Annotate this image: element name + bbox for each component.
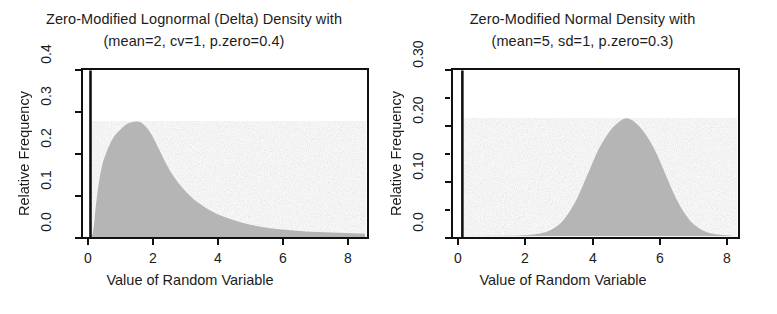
x-tick-label-right-4: 8 bbox=[723, 250, 731, 266]
plot-inner-normal bbox=[453, 70, 738, 237]
x-tick-label-left-3: 6 bbox=[279, 250, 287, 266]
y-axis-title-right: Relative Frequency bbox=[388, 74, 404, 234]
x-tick-right-4 bbox=[592, 239, 594, 245]
x-tick-right-0 bbox=[457, 239, 459, 245]
y-tick-label-right-2: 0.10 bbox=[410, 152, 426, 179]
x-tick-label-left-4: 8 bbox=[344, 250, 352, 266]
chart-title-lognormal: Zero-Modified Lognormal (Delta) Density … bbox=[0, 8, 388, 52]
x-tick-label-right-0: 0 bbox=[454, 250, 462, 266]
y-tick-label-left-0: 0.0 bbox=[38, 212, 54, 231]
x-tick-label-right-1: 2 bbox=[521, 250, 529, 266]
x-tick-left-4 bbox=[217, 239, 219, 245]
title-line-main: Zero-Modified Normal Density with bbox=[388, 8, 777, 30]
y-tick-label-left-3: 0.3 bbox=[38, 86, 54, 105]
x-tick-label-right-3: 6 bbox=[656, 250, 664, 266]
lognormal-area-path bbox=[91, 121, 365, 237]
figure-root: Zero-Modified Lognormal (Delta) Density … bbox=[0, 0, 777, 314]
x-tick-right-8 bbox=[726, 239, 728, 245]
y-tick-label-right-0: 0.0 bbox=[410, 212, 426, 231]
title-line-main: Zero-Modified Lognormal (Delta) Density … bbox=[0, 8, 388, 30]
x-tick-label-right-2: 4 bbox=[589, 250, 597, 266]
plot-area-lognormal bbox=[81, 68, 369, 239]
y-tick-right-5 bbox=[445, 97, 450, 99]
spike-at-zero-lognormal bbox=[89, 70, 92, 237]
x-tick-label-left-1: 2 bbox=[149, 250, 157, 266]
panel-lognormal: Zero-Modified Lognormal (Delta) Density … bbox=[0, 0, 388, 314]
density-curve-normal bbox=[453, 70, 738, 237]
y-tick-label-right-6: 0.30 bbox=[410, 40, 426, 67]
x-tick-left-6 bbox=[282, 239, 284, 245]
y-axis-title-left: Relative Frequency bbox=[16, 74, 32, 234]
x-tick-label-left-0: 0 bbox=[84, 250, 92, 266]
y-tick-label-right-4: 0.20 bbox=[410, 96, 426, 123]
x-tick-right-6 bbox=[659, 239, 661, 245]
title-line-params: (mean=2, cv=1, p.zero=0.4) bbox=[0, 30, 388, 52]
x-axis-title-left: Value of Random Variable bbox=[25, 272, 355, 288]
plot-inner-lognormal bbox=[83, 70, 367, 237]
x-tick-label-left-2: 4 bbox=[214, 250, 222, 266]
x-tick-left-8 bbox=[347, 239, 349, 245]
density-curve-lognormal bbox=[83, 70, 367, 237]
y-tick-label-left-2: 0.2 bbox=[38, 128, 54, 147]
title-line-params: (mean=5, sd=1, p.zero=0.3) bbox=[388, 30, 777, 52]
x-tick-left-0 bbox=[87, 239, 89, 245]
x-tick-left-2 bbox=[152, 239, 154, 245]
x-tick-right-2 bbox=[524, 239, 526, 245]
panel-normal: Zero-Modified Normal Density with (mean=… bbox=[388, 0, 777, 314]
chart-title-normal: Zero-Modified Normal Density with (mean=… bbox=[388, 8, 777, 52]
y-tick-label-left-1: 0.1 bbox=[38, 170, 54, 189]
spike-at-zero-normal bbox=[461, 70, 464, 237]
plot-area-normal bbox=[451, 68, 740, 239]
normal-area-path bbox=[463, 118, 736, 236]
y-tick-right-3 bbox=[445, 153, 450, 155]
x-axis-title-right: Value of Random Variable bbox=[398, 272, 728, 288]
y-tick-right-1 bbox=[445, 209, 450, 211]
y-tick-label-left-4: 0.4 bbox=[38, 44, 54, 63]
